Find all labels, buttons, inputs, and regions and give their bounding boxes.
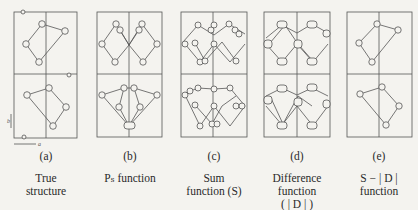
caption-e-line2: function <box>340 185 418 198</box>
caption-a-line1: True <box>14 172 78 185</box>
caption-d-line2: function <box>257 185 337 198</box>
a-axis-label: a <box>38 141 41 147</box>
panel-a-diagram <box>11 10 77 144</box>
caption-d-line1: Difference <box>257 172 337 185</box>
caption-d: (d) Difference function ( | D | ) <box>257 150 337 210</box>
caption-a-letter: (a) <box>14 150 78 163</box>
caption-b: (b) Pₛ function <box>90 150 170 185</box>
caption-b-line1: Pₛ function <box>90 172 170 185</box>
caption-d-line3: ( | D | ) <box>257 198 337 210</box>
caption-c-line1: Sum <box>174 172 254 185</box>
caption-c: (c) Sum function (S) <box>174 150 254 198</box>
caption-e-line1: S − | D | <box>340 172 418 185</box>
panel-e-diagram <box>347 12 412 137</box>
caption-c-line2: function (S) <box>174 185 254 198</box>
panel-b-diagram <box>97 12 162 137</box>
b-axis-label: b <box>7 118 10 124</box>
caption-a: (a) True structure <box>14 150 78 198</box>
caption-e: (e) S − | D | function <box>340 150 418 198</box>
caption-d-letter: (d) <box>257 150 337 163</box>
caption-a-line2: structure <box>14 185 78 198</box>
caption-e-letter: (e) <box>340 150 418 163</box>
caption-c-letter: (c) <box>174 150 254 163</box>
panel-c-diagram <box>181 12 247 137</box>
caption-b-letter: (b) <box>90 150 170 163</box>
panel-d-diagram <box>264 12 330 137</box>
